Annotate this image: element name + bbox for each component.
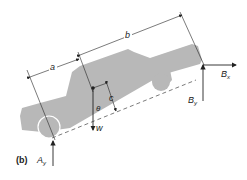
label-By: By (188, 95, 198, 106)
label-c: c (109, 93, 114, 103)
label-Ay: Ay (36, 155, 47, 166)
label-a: a (50, 62, 55, 72)
label-w: w (96, 123, 103, 133)
label-Bx: Bx (221, 69, 231, 80)
figure-label: (b) (16, 155, 28, 165)
label-theta: θ (96, 104, 101, 113)
label-b: b (125, 30, 130, 40)
car-silhouette (20, 44, 202, 138)
free-body-diagram: a b c θ w Ay By Bx (b) (0, 0, 247, 180)
